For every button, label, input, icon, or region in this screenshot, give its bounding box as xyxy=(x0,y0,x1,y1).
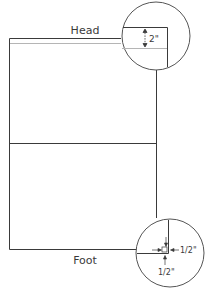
head-label: Head xyxy=(71,24,100,37)
foot-label: Foot xyxy=(73,254,97,267)
head-margin-measure: 2" xyxy=(149,34,159,44)
side-margin-measure: 1/2" xyxy=(180,246,197,255)
bottom-margin-measure: 1/2" xyxy=(158,268,175,277)
page-layout-diagram: Head Foot 2" xyxy=(0,0,208,291)
foot-detail-callout: 1/2" 1/2" xyxy=(136,219,204,287)
head-detail-callout: 2" xyxy=(122,2,190,70)
page-outline xyxy=(10,39,157,250)
